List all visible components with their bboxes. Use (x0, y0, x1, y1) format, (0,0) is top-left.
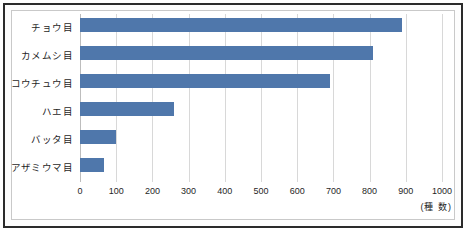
x-tick-label: 900 (398, 186, 413, 196)
bar[interactable] (80, 130, 116, 144)
axis-unit-label: (種 数) (421, 200, 453, 213)
category-label: コウチュウ目 (11, 70, 73, 98)
bar[interactable] (80, 158, 104, 172)
bar-row (80, 14, 442, 42)
x-tick-label: 600 (290, 186, 305, 196)
bar[interactable] (80, 74, 330, 88)
category-label: ハエ目 (42, 98, 73, 126)
plot-area (80, 14, 442, 182)
bar[interactable] (80, 46, 373, 60)
bar[interactable] (80, 18, 402, 32)
bar-row (80, 126, 442, 154)
x-tick-label: 100 (109, 186, 124, 196)
category-label: バッタ目 (31, 126, 73, 154)
x-tick-label: 200 (145, 186, 160, 196)
bar[interactable] (80, 102, 174, 116)
x-tick-label: 0 (77, 186, 82, 196)
category-label: チョウ目 (31, 14, 73, 42)
x-tick-label: 300 (181, 186, 196, 196)
category-axis-labels: チョウ目カメムシ目コウチュウ目ハエ目バッタ目アザミウマ目 (11, 14, 77, 182)
bar-chart-figure: チョウ目カメムシ目コウチュウ目ハエ目バッタ目アザミウマ目 01002003004… (0, 0, 466, 231)
x-tick-label: 500 (253, 186, 268, 196)
category-label: カメムシ目 (21, 42, 73, 70)
bar-row (80, 70, 442, 98)
bar-row (80, 98, 442, 126)
x-tick-label: 800 (362, 186, 377, 196)
category-label: アザミウマ目 (11, 154, 73, 182)
x-tick-label: 400 (217, 186, 232, 196)
bars-layer (80, 14, 442, 182)
x-tick-label: 700 (326, 186, 341, 196)
value-axis-ticks: 01002003004005006007008009001000 (80, 186, 442, 202)
bar-row (80, 154, 442, 182)
x-tick-label: 1000 (432, 186, 452, 196)
bar-row (80, 42, 442, 70)
